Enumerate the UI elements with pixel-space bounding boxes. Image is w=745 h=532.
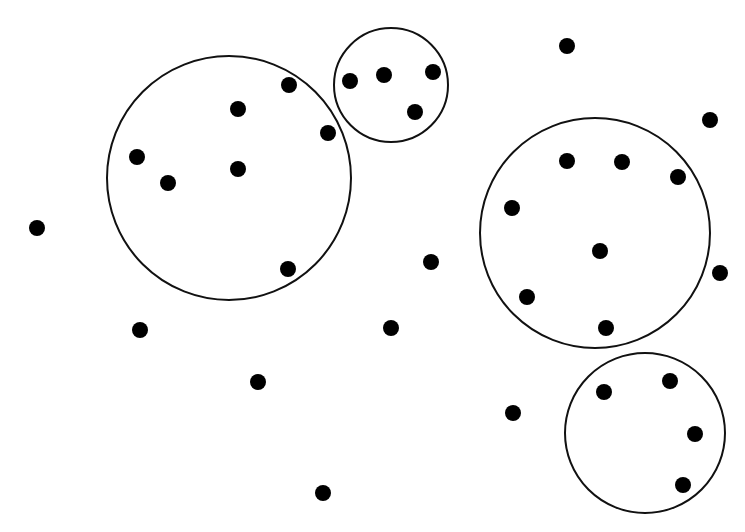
data-point: [598, 320, 614, 336]
outlier-point: [315, 485, 331, 501]
data-point: [230, 161, 246, 177]
outlier-point: [250, 374, 266, 390]
cluster-4: [565, 353, 725, 513]
cluster-diagram: [0, 0, 745, 532]
data-point: [280, 261, 296, 277]
data-point: [129, 149, 145, 165]
outlier-point: [132, 322, 148, 338]
data-point: [160, 175, 176, 191]
cluster-group: [107, 28, 725, 513]
data-point: [596, 384, 612, 400]
data-point: [670, 169, 686, 185]
data-point: [687, 426, 703, 442]
outlier-point: [29, 220, 45, 236]
data-point: [376, 67, 392, 83]
data-point: [662, 373, 678, 389]
outlier-point: [712, 265, 728, 281]
cluster-boundary-circle: [480, 118, 710, 348]
data-point: [342, 73, 358, 89]
outlier-point: [702, 112, 718, 128]
data-point: [559, 153, 575, 169]
outlier-point: [559, 38, 575, 54]
data-point: [519, 289, 535, 305]
data-point: [407, 104, 423, 120]
cluster-2: [334, 28, 448, 142]
data-point: [614, 154, 630, 170]
data-point: [675, 477, 691, 493]
outlier-group: [29, 38, 728, 501]
data-point: [281, 77, 297, 93]
data-point: [592, 243, 608, 259]
data-point: [425, 64, 441, 80]
data-point: [320, 125, 336, 141]
outlier-point: [383, 320, 399, 336]
cluster-1: [107, 56, 351, 300]
data-point: [230, 101, 246, 117]
data-point: [504, 200, 520, 216]
outlier-point: [423, 254, 439, 270]
cluster-boundary-circle: [107, 56, 351, 300]
outlier-point: [505, 405, 521, 421]
cluster-3: [480, 118, 710, 348]
